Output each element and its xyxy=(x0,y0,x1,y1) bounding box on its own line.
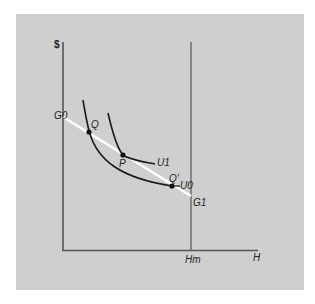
q-prime-label: Q' xyxy=(169,174,179,184)
indifference-curve-u1 xyxy=(108,113,155,164)
hm-label: Hm xyxy=(185,255,201,265)
x-axis-label: H xyxy=(253,253,260,263)
u0-label: U0 xyxy=(180,181,193,191)
u1-label: U1 xyxy=(157,158,170,168)
y-axis-label: $ xyxy=(54,40,60,50)
g1-label: G1 xyxy=(193,198,206,208)
point-p xyxy=(120,152,125,157)
indifference-curve-u0 xyxy=(83,100,172,186)
q-label: Q xyxy=(91,120,99,130)
diagram-canvas xyxy=(0,0,315,304)
p-label: P xyxy=(119,159,126,169)
hm-label-text: Hm xyxy=(185,254,201,265)
g0-label: G0 xyxy=(54,111,67,121)
point-q-prime xyxy=(169,183,174,188)
point-q xyxy=(86,129,91,134)
